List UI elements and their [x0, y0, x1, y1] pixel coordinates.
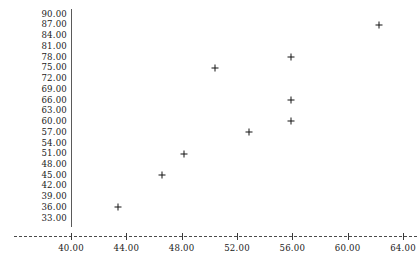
data-point-marker [287, 53, 294, 60]
data-point-marker [287, 118, 294, 125]
plot-data-area [0, 0, 419, 270]
data-point-marker [159, 172, 166, 179]
scatter-plot-figure: 90.0087.0084.0081.0078.0075.0072.0069.00… [0, 0, 419, 270]
data-point-marker [287, 96, 294, 103]
data-point-marker [115, 204, 122, 211]
data-point-marker [211, 64, 218, 71]
data-point-marker [181, 150, 188, 157]
data-point-marker [376, 21, 383, 28]
data-point-marker [246, 129, 253, 136]
